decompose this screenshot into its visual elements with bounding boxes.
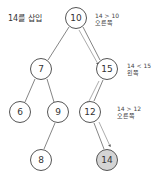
annotation-comparison: 14 > 12: [117, 105, 141, 112]
node-9: 9: [47, 101, 69, 123]
node-10: 10: [65, 7, 87, 29]
edge-7-6: [25, 79, 35, 102]
edge-12-14: [94, 123, 104, 149]
annotation-compare-12: 14 > 12 오른쪽: [117, 105, 141, 119]
node-7: 7: [30, 58, 52, 80]
annotation-direction: 왼쪽: [127, 69, 151, 76]
path-arrow-15-12: [88, 81, 99, 103]
annotation-compare-10: 14 > 10 오른쪽: [95, 12, 119, 26]
edge-7-9: [47, 79, 54, 102]
annotation-comparison: 14 < 15: [127, 62, 151, 69]
diagram-title: 14를 삽입: [8, 12, 42, 23]
node-6: 6: [9, 101, 31, 123]
annotation-comparison: 14 > 10: [95, 12, 119, 19]
bst-insertion-diagram: 14를 삽입 10 7 15 6 9 12 8 14 14 > 10 오른쪽 1…: [0, 0, 158, 179]
node-14-inserted: 14: [96, 149, 118, 171]
path-arrow-10-15: [79, 30, 98, 64]
node-8: 8: [30, 149, 52, 171]
node-15: 15: [96, 58, 118, 80]
annotation-compare-15: 14 < 15 왼쪽: [127, 62, 151, 76]
edge-15-12: [94, 80, 103, 101]
edge-9-8: [44, 123, 55, 149]
annotation-direction: 오른쪽: [117, 112, 141, 119]
annotation-direction: 오른쪽: [95, 19, 119, 26]
edge-10-15: [83, 27, 100, 60]
node-12: 12: [79, 101, 101, 123]
edge-10-7: [48, 27, 69, 60]
path-arrow-12-14: [99, 122, 110, 146]
